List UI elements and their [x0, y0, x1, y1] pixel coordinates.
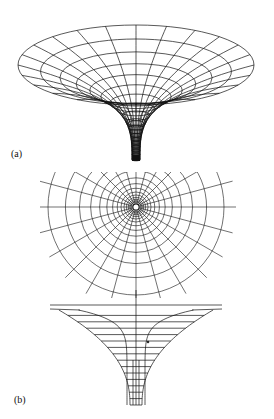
- embedding-diagram-figure: [0, 0, 274, 419]
- panel-a-label: (a): [11, 148, 22, 159]
- funnel-3d-diagram: [18, 25, 254, 161]
- panel-b-label: (b): [14, 394, 26, 405]
- embedding-profile-diagram: [50, 290, 222, 405]
